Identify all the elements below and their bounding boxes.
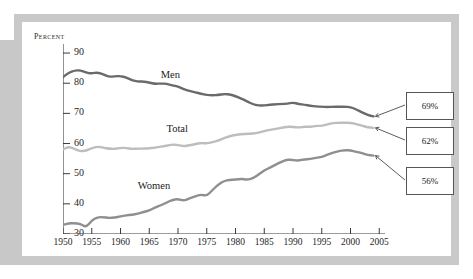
chart-svg — [63, 44, 385, 234]
y-axis-title: Percent — [34, 32, 65, 41]
page-margin-bottom — [0, 265, 473, 279]
chart-screenshot: Percent 30405060708090 19501955196019651… — [0, 0, 473, 279]
page-margin-top — [0, 0, 473, 14]
x-tick-label: 2005 — [362, 237, 396, 247]
plot-area — [63, 44, 385, 234]
page-margin-right — [459, 0, 473, 279]
callout-box-women: 56% — [406, 167, 454, 195]
callout-box-men: 69% — [406, 92, 454, 120]
page-margin-left — [0, 40, 22, 279]
callout-box-total: 62% — [406, 127, 454, 155]
